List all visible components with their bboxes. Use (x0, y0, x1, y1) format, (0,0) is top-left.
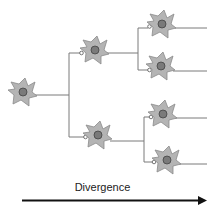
divergence-label: Divergence (0, 181, 205, 193)
neuron-level2-top-icon (80, 36, 109, 64)
neuron-level2-bottom-icon (83, 121, 112, 149)
neuron-source-icon (8, 78, 37, 106)
neuron-level3-2-icon (146, 52, 175, 80)
axon-lines (33, 28, 207, 164)
divergence-arrow (22, 196, 207, 205)
neuron-level3-3-icon (148, 100, 177, 128)
divergence-diagram: Divergence (0, 0, 223, 216)
neuron-level3-4-icon (152, 146, 181, 174)
neuron-level3-1-icon (147, 10, 176, 38)
